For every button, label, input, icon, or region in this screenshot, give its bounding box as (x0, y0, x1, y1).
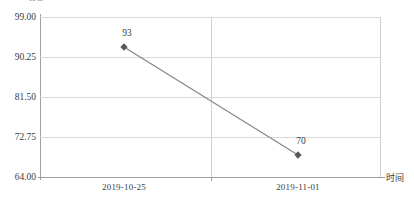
line-chart: 数量 99.00 90.25 81.50 72.75 64.00 2019-10… (0, 0, 414, 204)
data-point-label-1: 70 (296, 136, 306, 146)
series-layer (0, 0, 414, 204)
series-line-segment (124, 47, 298, 155)
data-point-label-0: 93 (122, 28, 132, 38)
data-point-marker-0[interactable] (120, 43, 127, 51)
data-point-marker-1[interactable] (294, 151, 301, 159)
